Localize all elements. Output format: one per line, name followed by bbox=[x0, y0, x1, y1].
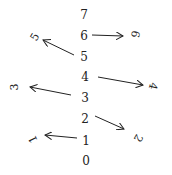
column-number: 0 bbox=[82, 155, 90, 167]
arrow bbox=[95, 116, 124, 129]
arrow bbox=[45, 135, 77, 138]
column-number: 7 bbox=[80, 9, 88, 21]
column-number: 6 bbox=[80, 30, 88, 42]
arrow bbox=[43, 40, 74, 55]
column-number: 2 bbox=[81, 113, 89, 125]
column-number: 5 bbox=[80, 51, 88, 63]
arrow bbox=[30, 87, 71, 95]
column-number: 3 bbox=[81, 92, 89, 104]
column-number: 1 bbox=[82, 135, 90, 147]
column-number: 4 bbox=[81, 71, 89, 83]
arrow bbox=[98, 77, 143, 85]
rotated-number: 3 bbox=[9, 84, 20, 91]
arrow bbox=[92, 35, 123, 36]
